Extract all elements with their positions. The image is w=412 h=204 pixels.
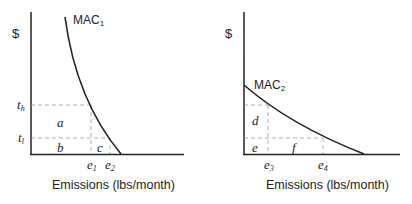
mac1-curve <box>65 17 121 154</box>
mac1-label: MAC1 <box>73 14 104 28</box>
mac2-label: MAC2 <box>254 79 285 93</box>
tick-th: th <box>17 98 25 113</box>
right-y-label: $ <box>225 27 232 40</box>
tick-e4: e4 <box>318 158 328 173</box>
area-a: a <box>57 116 64 129</box>
tick-e3: e3 <box>264 158 274 173</box>
tick-tl: tl <box>18 131 24 146</box>
tick-e1: e1 <box>87 158 97 173</box>
area-f: f <box>292 141 296 154</box>
area-c: c <box>97 141 103 154</box>
area-d: d <box>252 114 259 127</box>
left-y-label: $ <box>12 27 19 40</box>
area-b: b <box>57 141 64 154</box>
diagram-lines <box>0 0 412 204</box>
mac2-curve <box>244 85 364 154</box>
tick-e2: e2 <box>105 158 115 173</box>
left-x-label: Emissions (lbs/month) <box>52 179 175 192</box>
right-x-label: Emissions (lbs/month) <box>266 179 389 192</box>
area-e: e <box>252 141 258 154</box>
